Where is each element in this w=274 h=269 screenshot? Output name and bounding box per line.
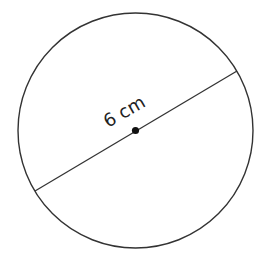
diameter-label: 6 cm <box>100 91 149 131</box>
circle-diagram: 6 cm <box>0 0 274 269</box>
center-point <box>132 127 139 134</box>
